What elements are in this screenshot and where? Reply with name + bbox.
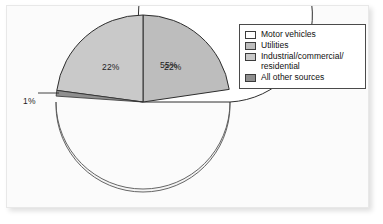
legend-label-industrial-commercial-residential: Industrial/commercial/ residential — [261, 51, 344, 71]
legend-item-all-other-sources[interactable]: All other sources — [245, 72, 360, 82]
slice-label-industrial-commercial-residential: 22% — [102, 62, 120, 72]
slice-label-all-other-sources: 1% — [23, 96, 36, 106]
legend-swatch-industrial-commercial-residential — [245, 53, 256, 61]
legend-label-motor-vehicles: Motor vehicles — [261, 29, 316, 39]
legend-label-all-other-sources: All other sources — [261, 72, 324, 82]
figure-panel: 55% 22% 22% 1% Motor vehicles Utilities … — [6, 5, 369, 208]
legend-item-motor-vehicles[interactable]: Motor vehicles — [245, 29, 360, 39]
pie-chart-plot-area: 55% 22% 22% 1% Motor vehicles Utilities … — [7, 6, 368, 207]
legend-swatch-all-other-sources — [245, 74, 256, 82]
legend-swatch-motor-vehicles — [245, 31, 256, 39]
slice-label-utilities: 22% — [164, 62, 182, 72]
legend-item-industrial-commercial-residential[interactable]: Industrial/commercial/ residential — [245, 51, 360, 71]
legend-label-utilities: Utilities — [261, 40, 288, 50]
chart-legend: Motor vehicles Utilities Industrial/comm… — [239, 24, 366, 89]
legend-swatch-utilities — [245, 42, 256, 50]
legend-item-utilities[interactable]: Utilities — [245, 40, 360, 50]
pie-bottom-rim — [56, 102, 230, 192]
pie-slice-industrial-commercial-residential[interactable] — [57, 15, 143, 102]
